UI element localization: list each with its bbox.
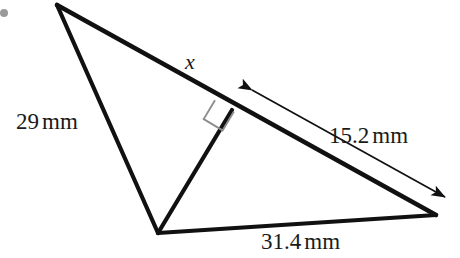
label-arrow-measure-value: 15.2 xyxy=(329,123,369,148)
label-side-bottom-unit: mm xyxy=(304,229,340,254)
corner-dot-decoration xyxy=(0,9,8,17)
label-side-left-value: 29 xyxy=(16,109,39,134)
label-arrow-measure: 15.2mm xyxy=(329,124,408,147)
label-arrow-measure-unit: mm xyxy=(372,123,408,148)
label-side-bottom-value: 31.4 xyxy=(261,229,301,254)
label-side-bottom: 31.4mm xyxy=(261,230,340,253)
label-side-left-unit: mm xyxy=(42,109,78,134)
geometry-diagram: 29mm 31.4mm 15.2mm x xyxy=(0,0,460,258)
label-unknown-side-x: x xyxy=(185,51,195,73)
label-side-left: 29mm xyxy=(16,110,78,133)
triangle-side-hypotenuse xyxy=(57,5,436,215)
